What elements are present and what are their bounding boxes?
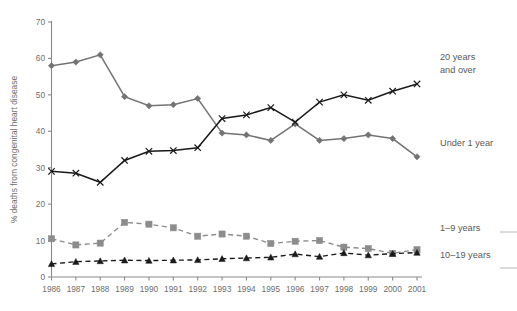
data-point-diamond xyxy=(122,94,128,100)
x-tick-label: 1991 xyxy=(164,284,183,294)
data-point-square xyxy=(316,237,322,243)
y-tick-label: 70 xyxy=(36,17,46,27)
series-line xyxy=(52,55,418,157)
line-chart-canvas: 0102030405060701986198719881989199019911… xyxy=(0,0,517,311)
square-marker xyxy=(219,231,225,237)
x-tick-label: 1987 xyxy=(67,284,86,294)
series-annotation-1: and over xyxy=(440,65,476,75)
square-marker xyxy=(48,236,54,242)
data-point-diamond xyxy=(48,63,54,69)
x-tick-label: 1994 xyxy=(237,284,256,294)
series-line xyxy=(52,84,418,182)
square-marker xyxy=(73,242,79,248)
chart-figure: 0102030405060701986198719881989199019911… xyxy=(0,0,517,311)
data-point-diamond xyxy=(243,132,249,138)
square-marker xyxy=(195,233,201,239)
data-point-square xyxy=(243,233,249,239)
data-point-square xyxy=(292,238,298,244)
y-tick-label: 60 xyxy=(36,53,46,63)
square-marker xyxy=(365,245,371,251)
data-point-diamond xyxy=(73,59,79,65)
square-marker xyxy=(170,225,176,231)
square-marker xyxy=(316,237,322,243)
data-point-x xyxy=(97,179,103,185)
data-point-x xyxy=(121,157,127,163)
data-point-square xyxy=(122,219,128,225)
x-marker xyxy=(97,179,103,185)
x-tick-label: 2000 xyxy=(383,284,402,294)
x-tick-label: 1986 xyxy=(42,284,61,294)
square-marker xyxy=(268,240,274,246)
x-tick-label: 1990 xyxy=(140,284,159,294)
y-tick-label: 0 xyxy=(40,272,45,282)
data-point-diamond xyxy=(97,52,103,58)
data-point-diamond xyxy=(170,102,176,108)
y-tick-label: 20 xyxy=(36,199,46,209)
data-point-diamond xyxy=(341,135,347,141)
data-point-square xyxy=(195,233,201,239)
diamond-marker xyxy=(73,59,79,65)
data-point-square xyxy=(365,245,371,251)
series-20-years-and-over xyxy=(48,81,420,186)
data-point-diamond xyxy=(365,132,371,138)
diamond-marker xyxy=(365,132,371,138)
diamond-marker xyxy=(243,132,249,138)
diamond-marker xyxy=(341,135,347,141)
x-tick-label: 1993 xyxy=(213,284,232,294)
y-tick-label: 30 xyxy=(36,163,46,173)
x-tick-label: 1988 xyxy=(91,284,110,294)
data-point-square xyxy=(73,242,79,248)
data-point-square xyxy=(146,221,152,227)
series-annotation-0: 20 years xyxy=(440,52,476,62)
data-point-diamond xyxy=(146,103,152,109)
x-marker xyxy=(121,157,127,163)
series-annotation-3: 1–9 years xyxy=(440,223,481,233)
diamond-marker xyxy=(146,103,152,109)
series-line xyxy=(52,253,418,264)
data-point-square xyxy=(268,240,274,246)
square-marker xyxy=(243,233,249,239)
x-tick-label: 1989 xyxy=(115,284,134,294)
diamond-marker xyxy=(48,63,54,69)
y-tick-label: 40 xyxy=(36,126,46,136)
y-tick-label: 50 xyxy=(36,90,46,100)
diamond-marker xyxy=(97,52,103,58)
diamond-marker xyxy=(170,102,176,108)
square-marker xyxy=(292,238,298,244)
x-tick-label: 1992 xyxy=(188,284,207,294)
data-point-square xyxy=(97,240,103,246)
data-point-square xyxy=(170,225,176,231)
x-tick-label: 1996 xyxy=(286,284,305,294)
square-marker xyxy=(122,219,128,225)
x-tick-label: 1997 xyxy=(310,284,329,294)
x-tick-label: 1999 xyxy=(359,284,378,294)
series-annotation-2: Under 1 year xyxy=(440,138,493,148)
series-10-19-years xyxy=(48,249,420,266)
diamond-marker xyxy=(122,94,128,100)
data-point-square xyxy=(48,236,54,242)
series-1-9-years xyxy=(48,219,420,256)
data-point-square xyxy=(219,231,225,237)
series-under-1-year xyxy=(48,52,420,160)
square-marker xyxy=(97,240,103,246)
y-tick-label: 10 xyxy=(36,236,46,246)
y-axis-title: % deaths from congenital heart disease xyxy=(9,76,19,223)
series-annotation-4: 10–19 years xyxy=(440,250,491,260)
series-line xyxy=(52,222,418,253)
x-tick-label: 1998 xyxy=(335,284,354,294)
x-tick-label: 1995 xyxy=(262,284,281,294)
x-tick-label: 2001 xyxy=(408,284,427,294)
square-marker xyxy=(146,221,152,227)
